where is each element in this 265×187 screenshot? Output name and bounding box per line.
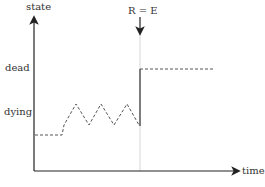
diagram-graphics [0, 0, 265, 187]
level-label-dead: dead [5, 62, 30, 73]
level-label-dying: dying [4, 106, 32, 117]
y-axis-label: state [26, 1, 51, 12]
marker-label: R = E [128, 5, 158, 16]
dying-trajectory [35, 104, 139, 135]
x-axis-label: time [242, 165, 265, 176]
state-time-diagram: state time dead dying R = E [0, 0, 265, 187]
